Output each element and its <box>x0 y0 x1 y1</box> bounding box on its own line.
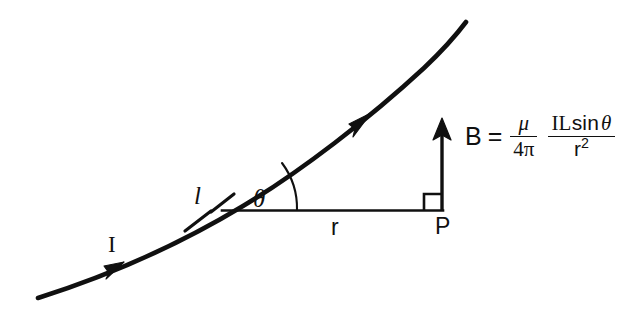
distance-label-r: r <box>331 216 339 239</box>
main-fraction-denominator: r2 <box>571 138 592 161</box>
numerator-length-L: L <box>559 111 572 135</box>
angle-label-theta: θ <box>253 186 265 211</box>
numerator-sin: sin <box>572 111 599 134</box>
denominator-base-r: r <box>574 137 581 160</box>
current-wire-group <box>38 22 466 298</box>
constant-fraction: μ 4π <box>510 112 537 161</box>
right-angle-marker <box>424 194 441 210</box>
main-fraction-numerator: ILsin θ <box>548 112 614 135</box>
equation-equals-sign: = <box>488 122 503 151</box>
main-fraction: ILsin θ r2 <box>548 112 614 161</box>
current-label-I: I <box>108 233 116 256</box>
current-wire-path <box>38 22 466 298</box>
wire-arrowhead-lower <box>104 262 124 279</box>
length-element-label-l: l <box>194 183 201 208</box>
numerator-angle-theta: θ <box>601 111 612 135</box>
constant-fraction-denominator: 4π <box>510 138 537 161</box>
constant-fraction-numerator: μ <box>516 112 533 135</box>
biot-savart-diagram: I l θ r P B = μ 4π ILsin θ r2 <box>0 0 632 315</box>
denominator-exponent-2: 2 <box>581 135 589 151</box>
biot-savart-equation: B = μ 4π ILsin θ r2 <box>465 112 615 161</box>
numerator-current-I: I <box>551 111 558 135</box>
magnetic-field-vector-B <box>433 118 451 211</box>
wire-arrowhead-upper <box>349 113 371 137</box>
point-label-P: P <box>435 215 450 238</box>
equation-lhs-B: B <box>465 122 482 151</box>
